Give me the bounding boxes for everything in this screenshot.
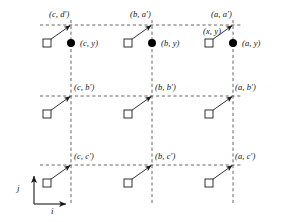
pointer-arrow <box>132 26 152 40</box>
node-label: (b, c′) <box>155 152 176 161</box>
square-marker <box>43 39 51 47</box>
square-marker <box>124 110 132 118</box>
node-label: (b, b′) <box>155 83 176 92</box>
node-label: (b, a′) <box>130 10 151 19</box>
node-label: (c, c′) <box>74 152 94 161</box>
axis-label-i: i <box>51 207 54 216</box>
filled-dot-marker <box>229 39 237 47</box>
pointer-value-label: (x, y) <box>203 27 221 36</box>
pointer-arrow <box>213 166 233 180</box>
pointer-arrow <box>51 97 71 111</box>
square-marker <box>124 39 132 47</box>
pointer-arrow <box>51 26 71 40</box>
node-label: (a, c′) <box>235 152 256 161</box>
square-marker <box>205 39 213 47</box>
diagram-canvas <box>0 0 281 222</box>
node-label: (a, a′) <box>211 10 232 19</box>
pointer-arrow <box>213 97 233 111</box>
dot-label: (b, y) <box>161 39 180 48</box>
dot-label: (c, y) <box>80 39 98 48</box>
node-label: (c, d′) <box>49 10 70 19</box>
node-label: (c, b′) <box>74 83 95 92</box>
square-marker <box>43 179 51 187</box>
filled-dot-marker <box>148 39 156 47</box>
node-label: (a, b′) <box>235 83 256 92</box>
pointer-arrow <box>132 97 152 111</box>
dot-label: (a, y) <box>242 39 261 48</box>
grid-diagram-figure: (c, d′)(b, a′)(a, a′)(c, b′)(b, b′)(a, b… <box>0 0 281 222</box>
pointer-arrow <box>132 166 152 180</box>
square-marker <box>205 179 213 187</box>
square-marker <box>43 110 51 118</box>
filled-dot-marker <box>67 39 75 47</box>
axis-label-j: j <box>17 184 20 193</box>
square-marker <box>124 179 132 187</box>
pointer-arrow <box>51 166 71 180</box>
square-marker <box>205 110 213 118</box>
